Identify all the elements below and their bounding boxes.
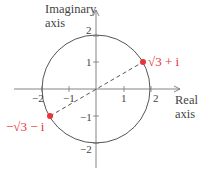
point-sqrt3-plus-i: [140, 59, 146, 65]
imaginary-axis-title-line1: Imaginary: [45, 2, 97, 16]
label-neg-sqrt3-minus-i: −√3 − i: [6, 119, 45, 134]
y-tick-1: 1: [86, 56, 92, 68]
x-tick-1: 1: [121, 92, 127, 104]
complex-plane-diagram: −2 −1 1 2 2 1 −1 −2 Imaginary axis Real …: [0, 0, 216, 172]
x-tick-neg2: −2: [32, 92, 44, 104]
imaginary-axis-title-line2: axis: [45, 16, 65, 30]
real-axis-title-line2: axis: [175, 107, 195, 121]
x-tick-2: 2: [153, 92, 159, 104]
point-neg-sqrt3-minus-i: [47, 113, 53, 119]
y-tick-neg2: −2: [80, 143, 92, 155]
y-tick-2: 2: [86, 24, 92, 36]
y-tick-neg1: −1: [80, 111, 92, 123]
x-tick-neg1: −1: [63, 92, 75, 104]
label-sqrt3-plus-i: √3 + i: [148, 54, 179, 69]
real-axis-title-line1: Real: [175, 93, 198, 107]
